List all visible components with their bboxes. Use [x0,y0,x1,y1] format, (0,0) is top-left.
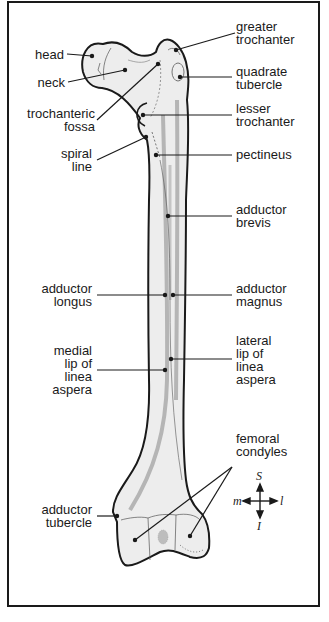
label-adductor-magnus: adductor magnus [236,282,287,308]
label-quadrate-tubercle: quadrate tubercle [236,65,287,91]
label-spiral-line: spiral line [30,147,92,173]
label-lateral-lip-linea-aspera: lateral lip of linea aspera [236,334,276,386]
label-trochanteric-fossa: trochanteric fossa [10,107,95,133]
label-head: head [20,48,64,61]
compass-superior: S [256,470,262,482]
label-medial-lip-linea-aspera: medial lip of linea aspera [30,344,92,396]
label-adductor-tubercle: adductor tubercle [20,503,92,529]
label-greater-trochanter: greater trochanter [236,20,295,46]
femur-bone [82,40,209,566]
compass-medial: m [233,495,242,507]
orientation-compass-arrows [243,484,277,518]
label-lesser-trochanter: lesser trochanter [236,102,295,128]
label-adductor-longus: adductor longus [20,282,92,308]
label-neck: neck [20,76,65,89]
compass-lateral: l [280,495,283,507]
compass-inferior: I [257,520,261,532]
label-pectineus: pectineus [236,148,292,161]
label-adductor-brevis: adductor brevis [236,203,287,229]
label-femoral-condyles: femoral condyles [236,432,287,458]
